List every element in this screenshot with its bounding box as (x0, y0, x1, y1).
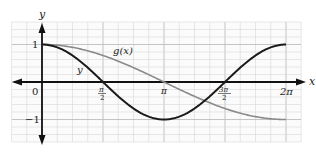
x-tick-2pi-label: 2π (279, 86, 293, 97)
x-tick-pi-label: π (160, 86, 168, 96)
x-axis-label: x (309, 75, 316, 88)
y-tick-neg1-label: −1 (25, 114, 40, 125)
curve-g-label: g(x) (113, 45, 133, 56)
origin-label: 0 (32, 86, 38, 97)
chart: y x 0 1 −1 g(x) y π 2 π 3π 2 2π (0, 0, 316, 152)
tick-denominator: 2 (222, 94, 226, 102)
curve-y-label: y (76, 64, 83, 75)
y-tick-1-label: 1 (32, 39, 38, 50)
tick-numerator: 3π (219, 86, 228, 94)
tick-numerator: π (98, 86, 104, 94)
tick-denominator: 2 (100, 94, 104, 102)
y-axis-label: y (38, 8, 46, 21)
